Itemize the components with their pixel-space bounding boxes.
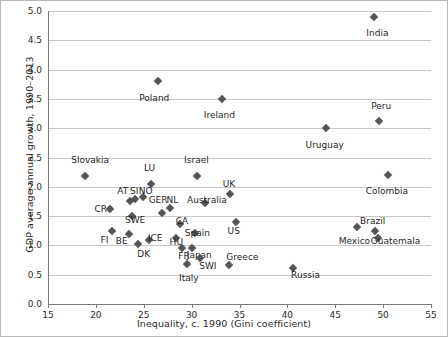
x-tick-mark [240, 304, 241, 308]
data-point-marker [81, 172, 89, 180]
plot-area: 0.00.51.01.52.02.53.03.54.04.55.0 152025… [48, 11, 431, 304]
data-point-label: GER [149, 195, 168, 205]
data-point-label: LU [144, 163, 155, 173]
data-point-label: India [366, 28, 388, 38]
y-tick-label: 1.5 [2, 211, 48, 221]
data-point-marker [226, 190, 234, 198]
data-point-marker [106, 205, 114, 213]
data-point-label: UK [223, 179, 236, 189]
data-point-label: Guatemala [371, 236, 421, 246]
y-tick-label: 5.0 [2, 6, 48, 16]
gridline [48, 70, 431, 71]
data-point-marker [321, 124, 329, 132]
data-point-label: SWI [199, 261, 216, 271]
chart-figure: GDP average annual growth, 1990–2013 0.0… [0, 0, 448, 337]
data-point-marker [183, 260, 191, 268]
data-point-label: NL [167, 195, 179, 205]
x-tick-mark [335, 304, 336, 308]
x-tick-mark [48, 304, 49, 308]
y-tick-label: 2.0 [2, 182, 48, 192]
data-point-label: ICE [148, 233, 163, 243]
data-point-label: DK [137, 249, 150, 259]
data-point-label: Spain [185, 228, 210, 238]
y-tick-label: 4.0 [2, 65, 48, 75]
data-point-marker [193, 172, 201, 180]
data-point-label: Italy [179, 273, 199, 283]
data-point-label: SI [130, 186, 138, 196]
x-tick-mark [144, 304, 145, 308]
x-tick-mark [431, 304, 432, 308]
data-point-label: Mexico [339, 236, 370, 246]
gridline [48, 275, 431, 276]
data-point-label: Ireland [204, 110, 235, 120]
gridline [48, 128, 431, 129]
data-point-marker [218, 95, 226, 103]
data-point-marker [384, 171, 392, 179]
gridline [48, 40, 431, 41]
data-point-marker [375, 117, 383, 125]
data-point-label: CA [176, 216, 188, 226]
data-point-label: Brazil [360, 216, 385, 226]
data-point-label: Poland [139, 93, 169, 103]
data-point-label: CR [94, 204, 107, 214]
y-tick-label: 0.5 [2, 270, 48, 280]
data-point-label: Peru [371, 101, 391, 111]
data-point-label: Uruguay [306, 140, 344, 150]
data-point-marker [134, 240, 142, 248]
gridline [48, 99, 431, 100]
data-point-marker [165, 204, 173, 212]
data-point-label: SWE [125, 215, 145, 225]
data-point-label: Russia [291, 270, 320, 280]
y-tick-label: 0.0 [2, 299, 48, 309]
y-tick-label: 3.5 [2, 94, 48, 104]
data-point-label: Slovakia [71, 155, 109, 165]
data-point-label: Australia [187, 195, 227, 205]
data-point-marker [225, 261, 233, 269]
x-tick-mark [192, 304, 193, 308]
data-point-label: BE [116, 236, 128, 246]
data-point-label: FI [101, 235, 109, 245]
x-tick-mark [383, 304, 384, 308]
data-point-label: Colombia [366, 186, 408, 196]
data-point-marker [154, 77, 162, 85]
x-tick-mark [287, 304, 288, 308]
x-axis-title: Inequality, c. 1990 (Gini coefficient) [1, 318, 447, 329]
y-tick-label: 4.5 [2, 35, 48, 45]
data-point-label: Greece [226, 252, 258, 262]
data-point-label: AT [117, 186, 128, 196]
data-point-marker [369, 13, 377, 21]
data-point-label: US [228, 226, 240, 236]
y-tick-label: 2.5 [2, 153, 48, 163]
y-tick-label: 3.0 [2, 123, 48, 133]
data-point-marker [108, 227, 116, 235]
y-axis-line [48, 11, 49, 305]
y-tick-label: 1.0 [2, 240, 48, 250]
x-tick-mark [96, 304, 97, 308]
data-point-label: Israel [184, 155, 209, 165]
